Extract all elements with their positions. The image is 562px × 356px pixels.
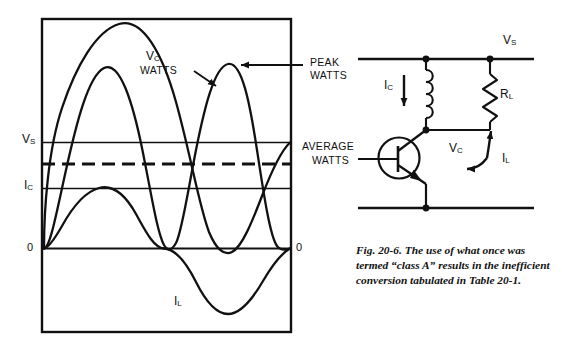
caption-line-2: termed “class A” results in the ineffici…	[356, 258, 560, 273]
watts-curve	[44, 64, 290, 250]
vc-curve	[44, 23, 290, 253]
circuit-il-label: IL	[502, 152, 510, 166]
il-current-arrow	[487, 131, 491, 158]
circuit-rl-label: RL	[500, 88, 513, 102]
vc-curve-label: VC	[146, 50, 160, 64]
peak-watts-annotation-line2: WATTS	[310, 70, 347, 82]
peak-watts-annotation-line1: PEAK	[310, 57, 339, 69]
watts-label-pointer	[194, 71, 216, 86]
caption-line-1: Fig. 20-6. The use of what once was	[356, 243, 560, 258]
circuit-vs-label: VS	[503, 34, 516, 48]
circuit-vc-label: VC	[449, 142, 463, 156]
inductor-coil	[426, 70, 433, 118]
transistor-emitter-arrow	[410, 170, 422, 182]
graph-zero-left-label: 0	[27, 241, 33, 253]
il-curve	[44, 187, 290, 314]
average-watts-annotation-line2: WATTS	[312, 155, 349, 167]
caption-line-3: conversion tabulated in Table 20-1.	[356, 273, 560, 288]
circuit-ic-label: IC	[384, 79, 393, 93]
graph-svg	[0, 0, 562, 356]
figure-caption: Fig. 20-6. The use of what once was term…	[356, 243, 560, 288]
vc-pointer-arrow	[467, 158, 487, 169]
resistor-zigzag	[483, 74, 497, 122]
watts-curve-label: WATTS	[140, 65, 177, 77]
il-curve-label: IL	[174, 295, 182, 309]
graph-vs-axis-label: VS	[22, 133, 35, 147]
figure-20-6: VS IC 0 0 VC WATTS IL PEAK WATTS AVERAGE…	[0, 0, 562, 356]
graph-zero-right-label: 0	[296, 241, 302, 253]
transistor-collector-lead	[398, 130, 426, 151]
average-watts-annotation-line1: AVERAGE	[302, 141, 354, 153]
graph-ic-axis-label: IC	[24, 179, 33, 193]
